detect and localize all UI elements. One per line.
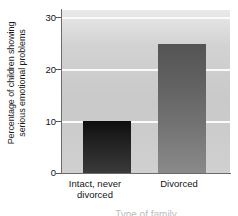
y-tick-label-10: 10 <box>34 116 56 127</box>
y-axis-tick-labels: 30 20 10 0 <box>30 0 56 180</box>
x-tick-label-divorced: Divorced <box>140 178 218 189</box>
y-axis-line <box>61 9 62 174</box>
gridline-30 <box>62 17 230 19</box>
y-tick-label-20: 20 <box>34 64 56 75</box>
x-axis-title: Type of family <box>62 209 230 216</box>
bar-chart-figure: Percentage of children showing serious e… <box>0 0 238 216</box>
y-tick-label-0: 0 <box>34 167 56 178</box>
bar-intact-never-divorced <box>83 121 131 173</box>
plot-area <box>62 10 230 173</box>
bar-divorced <box>158 44 206 173</box>
y-axis-title-wrapper: Percentage of children showing serious e… <box>0 0 32 180</box>
x-tick-label-intact-never-divorced: Intact, never divorced <box>56 178 134 200</box>
x-axis-line <box>61 173 231 174</box>
y-tick-label-30: 30 <box>34 12 56 23</box>
y-axis-title: Percentage of children showing serious e… <box>6 8 28 158</box>
